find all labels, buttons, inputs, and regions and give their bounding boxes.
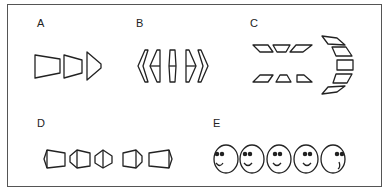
trapezoid-shape [64,55,82,78]
panel-e-shapes [214,145,345,173]
smiley-face [214,145,238,173]
chevron-shape [138,50,148,82]
smiley-face [294,145,318,173]
panel-c-shapes [253,36,353,94]
triangle-shape [87,52,101,80]
panel-a-shapes [35,52,101,80]
smiley-face [240,145,264,173]
trapezoid-shape [35,55,60,78]
chevron-shape [198,50,208,82]
parallelogram-shape [253,45,273,52]
smiley-face [267,145,291,173]
smiley-face [321,145,345,173]
panel-d-shapes [44,150,172,168]
panel-b-shapes [138,50,208,82]
